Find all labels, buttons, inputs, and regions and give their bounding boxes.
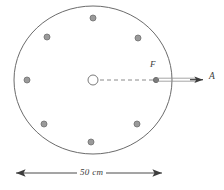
label-focus-point: F [150,60,156,69]
disc-dot-lower-left [41,121,47,127]
label-axis-point: A [209,72,215,82]
disc-dot-upper-left [44,34,50,40]
disc-dot-left [24,77,30,83]
disc-dot-top [90,15,96,21]
disc-dot-bottom [88,139,94,145]
disc-dot-upper-right [135,35,141,41]
disc-center-hub [88,75,98,85]
disc-dot-lower-right [134,121,140,127]
physics-diagram-figure: F A 50 cm [0,0,224,190]
diagram-canvas [0,0,224,190]
label-dimension-value: 50 cm [77,168,106,177]
